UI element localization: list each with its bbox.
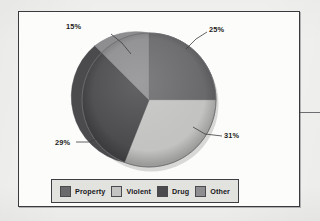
legend-item-property[interactable]: Property	[60, 186, 105, 197]
pie-label-violent: 31%	[224, 131, 239, 140]
side-rule-line	[300, 112, 320, 113]
chart-legend: Property Violent Drug Other	[51, 179, 239, 203]
pie-label-drug: 29%	[55, 138, 70, 147]
legend-swatch-violent	[111, 186, 122, 197]
legend-label-property: Property	[75, 187, 105, 196]
legend-swatch-drug	[157, 186, 168, 197]
pie-chart: 15% 25% 31% 29% Property Violent Drug	[19, 12, 301, 208]
pie-label-property: 25%	[209, 25, 224, 34]
legend-label-other: Other	[210, 187, 230, 196]
legend-label-drug: Drug	[172, 187, 189, 196]
legend-item-drug[interactable]: Drug	[157, 186, 189, 197]
legend-item-violent[interactable]: Violent	[111, 186, 151, 197]
figure-frame: 15% 25% 31% 29% Property Violent Drug	[18, 11, 300, 207]
legend-swatch-other	[195, 186, 206, 197]
figure-page: 15% 25% 31% 29% Property Violent Drug	[0, 0, 320, 221]
legend-item-other[interactable]: Other	[195, 186, 230, 197]
legend-label-violent: Violent	[126, 187, 151, 196]
pie-rim-shade	[82, 33, 216, 167]
legend-swatch-property	[60, 186, 71, 197]
pie-label-other: 15%	[66, 22, 81, 31]
